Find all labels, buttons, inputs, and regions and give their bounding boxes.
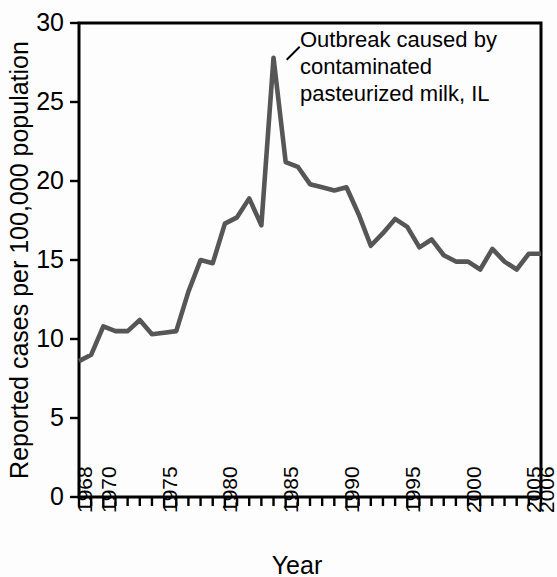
annotation-label: Outbreak caused by contaminated pasteuri… bbox=[300, 27, 497, 106]
y-tick-label: 15 bbox=[36, 245, 64, 273]
x-axis-title: Year bbox=[272, 551, 323, 577]
x-tick-label: 1968 bbox=[73, 466, 96, 513]
y-tick-label: 30 bbox=[36, 8, 64, 36]
x-tick-label: 1980 bbox=[218, 466, 241, 513]
y-tick-label: 5 bbox=[50, 403, 64, 431]
x-tick-label: 1990 bbox=[340, 466, 363, 513]
x-tick-label: 1970 bbox=[97, 466, 120, 513]
x-tick-label: 1995 bbox=[401, 466, 424, 513]
y-axis-title: Reported cases per 100,000 population bbox=[5, 41, 33, 479]
line-chart: 30 25 20 15 10 5 0 Reported cases per 10… bbox=[0, 0, 557, 577]
x-tick-label: 1975 bbox=[158, 466, 181, 513]
y-tick-label: 20 bbox=[36, 166, 64, 194]
y-tick-label: 25 bbox=[36, 87, 64, 115]
annotation-line-3: pasteurized milk, IL bbox=[300, 81, 490, 106]
annotation-line-2: contaminated bbox=[300, 54, 432, 79]
x-tick-label: 2000 bbox=[462, 466, 485, 513]
annotation-leader-line bbox=[287, 47, 300, 60]
chart-figure: 30 25 20 15 10 5 0 Reported cases per 10… bbox=[0, 0, 557, 577]
annotation-line-1: Outbreak caused by bbox=[300, 27, 497, 52]
x-tick-label: 2006 bbox=[535, 466, 557, 513]
y-tick-label: 0 bbox=[50, 482, 64, 510]
x-tick-label: 1985 bbox=[279, 466, 302, 513]
x-axis-tick-labels: 1968197019751980198519901995200020052006 bbox=[73, 466, 557, 513]
y-tick-label: 10 bbox=[36, 324, 64, 352]
y-axis-tick-labels: 30 25 20 15 10 5 0 bbox=[36, 8, 64, 510]
